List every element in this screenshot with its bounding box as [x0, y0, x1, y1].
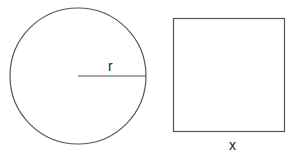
side-label: x — [229, 137, 236, 153]
square-shape — [174, 19, 285, 132]
radius-label: r — [108, 58, 113, 74]
diagram-canvas: r x — [0, 0, 288, 156]
